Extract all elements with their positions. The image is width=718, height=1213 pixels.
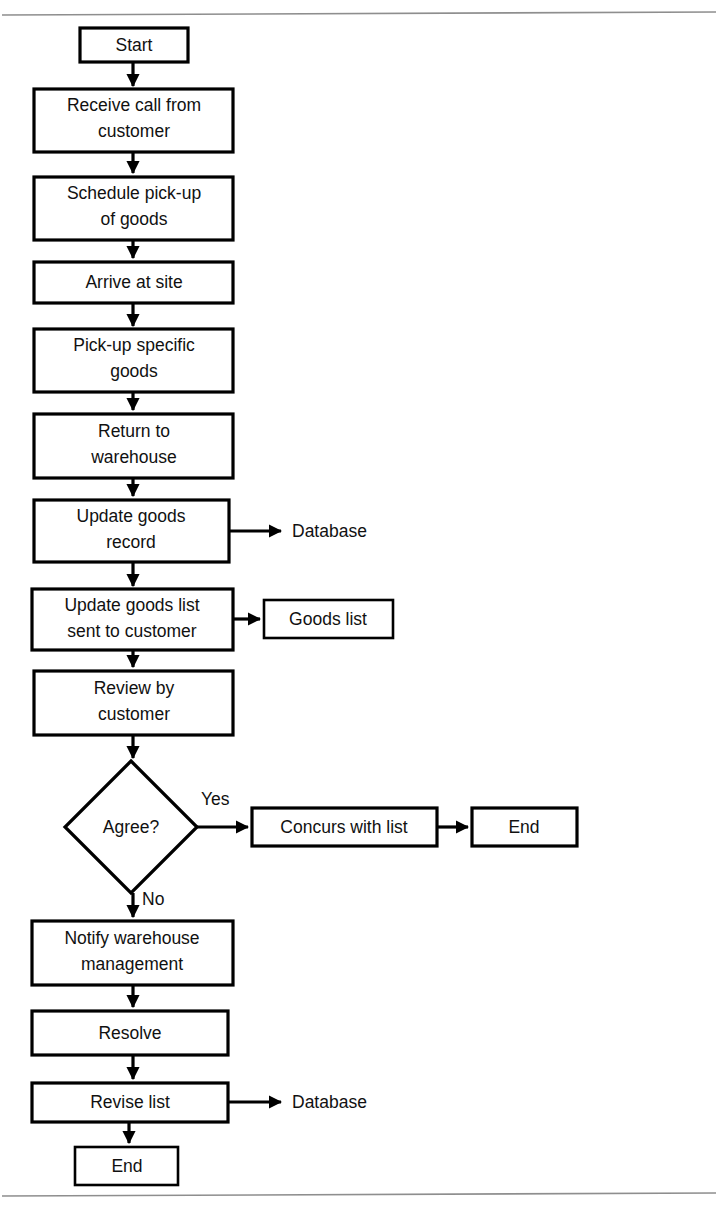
node-arrive-site-label: Arrive at site [85,272,182,292]
node-concurs-list-label: Concurs with list [280,817,408,837]
node-resolve[interactable]: Resolve [32,1011,228,1055]
node-start-label: Start [116,35,153,55]
node-end-top[interactable]: End [472,808,577,846]
side-label-database-lower: Database [292,1092,367,1112]
node-return-warehouse-label-line1: Return to [98,421,170,441]
node-notify-warehouse-label-line1: Notify warehouse [64,928,199,948]
node-update-list[interactable]: Update goods list sent to customer [32,589,233,650]
node-notify-warehouse[interactable]: Notify warehouse management [32,921,233,985]
node-pickup-goods[interactable]: Pick-up specific goods [34,329,233,392]
node-revise-list-label: Revise list [90,1092,170,1112]
node-agree-decision-label: Agree? [103,817,160,837]
node-resolve-label: Resolve [98,1023,161,1043]
top-rule [2,12,716,15]
node-receive-call-label-line1: Receive call from [67,95,201,115]
node-end-bottom[interactable]: End [75,1147,178,1185]
node-revise-list[interactable]: Revise list [32,1083,228,1122]
node-review-customer-label-line2: customer [98,704,170,724]
node-schedule-pickup-label-line1: Schedule pick-up [67,183,201,203]
node-update-list-label-line2: sent to customer [67,621,197,641]
node-receive-call-label-line2: customer [98,121,170,141]
node-arrive-site[interactable]: Arrive at site [34,262,233,303]
node-schedule-pickup[interactable]: Schedule pick-up of goods [34,177,233,240]
side-label-database-upper: Database [292,521,367,541]
node-start[interactable]: Start [80,28,188,62]
node-return-warehouse[interactable]: Return to warehouse [34,414,233,478]
bottom-rule [2,1193,716,1196]
node-notify-warehouse-label-line2: management [81,954,183,974]
node-return-warehouse-label-line2: warehouse [90,447,177,467]
edge-label-yes: Yes [201,789,230,809]
node-end-top-label: End [508,817,539,837]
node-pickup-goods-label-line1: Pick-up specific [73,335,195,355]
node-receive-call[interactable]: Receive call from customer [34,89,233,152]
node-goods-list-store[interactable]: Goods list [264,600,393,638]
node-end-bottom-label: End [111,1156,142,1176]
node-update-record-label-line2: record [106,532,156,552]
node-update-record[interactable]: Update goods record [34,500,229,562]
node-schedule-pickup-label-line2: of goods [100,209,167,229]
node-pickup-goods-label-line2: goods [110,361,158,381]
node-update-record-label-line1: Update goods [77,506,186,526]
flowchart-diagram: Start Receive call from customer Schedul… [0,0,718,1213]
edge-label-no: No [142,889,164,909]
node-review-customer[interactable]: Review by customer [34,671,233,735]
node-concurs-list[interactable]: Concurs with list [252,808,437,846]
node-agree-decision[interactable]: Agree? [65,761,197,893]
node-review-customer-label-line1: Review by [94,678,175,698]
node-update-list-label-line1: Update goods list [64,595,199,615]
node-goods-list-store-label: Goods list [289,609,367,629]
flowchart-canvas: Start Receive call from customer Schedul… [0,0,718,1213]
